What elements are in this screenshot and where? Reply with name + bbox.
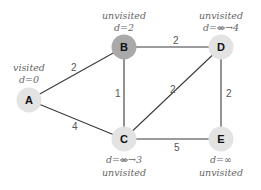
edge-a-c bbox=[29, 100, 124, 139]
weight-d-e: 2 bbox=[226, 88, 232, 99]
weight-c-e: 5 bbox=[174, 142, 180, 153]
node-c-distance-old: ∞ bbox=[120, 154, 128, 165]
weight-c-d: 2 bbox=[170, 84, 176, 95]
edges bbox=[29, 47, 221, 139]
node-c-distance: d=∞→3 bbox=[106, 154, 142, 165]
node-c-label: C bbox=[120, 133, 128, 145]
graph-diagram: 2 4 1 2 2 5 2 visited d=0 A unvisited d=… bbox=[0, 0, 261, 190]
node-d[interactable]: unvisited d=∞→4 D bbox=[199, 10, 243, 60]
weight-a-c: 4 bbox=[72, 121, 78, 132]
node-a[interactable]: visited d=0 A bbox=[13, 62, 45, 113]
edge-weights: 2 4 1 2 2 5 2 bbox=[71, 35, 232, 153]
node-a-status: visited bbox=[13, 62, 45, 73]
node-e-status: unvisited bbox=[199, 167, 243, 178]
weight-b-d: 2 bbox=[173, 35, 179, 46]
node-c-distance-prefix: d= bbox=[106, 154, 120, 165]
node-d-distance: d=∞→4 bbox=[203, 22, 239, 33]
node-c[interactable]: C d=∞→3 unvisited bbox=[102, 127, 146, 179]
node-d-distance-prefix: d= bbox=[203, 22, 217, 33]
node-d-label: D bbox=[217, 41, 225, 53]
node-b-status: unvisited bbox=[102, 10, 146, 21]
weight-b-c: 1 bbox=[115, 88, 121, 99]
weight-a-b: 2 bbox=[71, 62, 77, 73]
node-c-status: unvisited bbox=[102, 167, 146, 178]
node-d-distance-new: →4 bbox=[225, 22, 239, 33]
node-e-label: E bbox=[217, 133, 224, 145]
node-c-distance-new: →3 bbox=[128, 154, 142, 165]
node-a-label: A bbox=[25, 94, 33, 106]
node-d-distance-old: ∞ bbox=[217, 22, 225, 33]
node-b[interactable]: unvisited d=2 B bbox=[102, 10, 146, 60]
node-a-distance: d=0 bbox=[19, 74, 39, 85]
node-b-label: B bbox=[120, 41, 128, 53]
node-b-distance: d=2 bbox=[114, 22, 134, 33]
edge-a-b bbox=[29, 47, 124, 100]
node-d-status: unvisited bbox=[199, 10, 243, 21]
node-e[interactable]: E d=∞ unvisited bbox=[199, 127, 243, 179]
node-e-distance: d=∞ bbox=[210, 154, 232, 165]
